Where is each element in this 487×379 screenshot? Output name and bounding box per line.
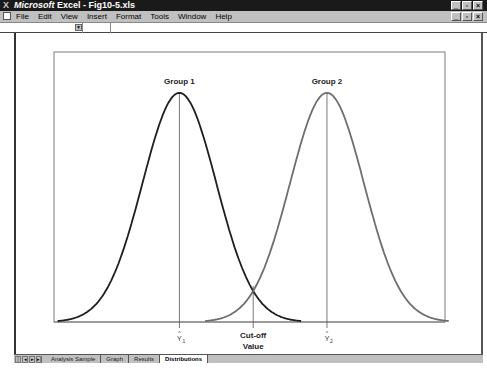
centroid-1-symbol: Y <box>177 335 182 342</box>
plot-area[interactable] <box>54 52 445 322</box>
tab-navigation: |◂ ◂ ▸ ▸| <box>15 356 42 363</box>
menu-tools[interactable]: Tools <box>150 11 169 22</box>
chart[interactable]: Group 1 Group 2 ^ Y 1 ^ Y 2 Cut-off Valu… <box>16 33 485 354</box>
minimize-button[interactable]: _ <box>451 1 461 10</box>
window-right-border <box>481 33 483 354</box>
workbook-controls: _ ▫ × <box>451 12 483 21</box>
menu-file[interactable]: File <box>16 11 29 22</box>
cutoff-label-line-2: Value <box>243 342 264 351</box>
centroid-1-subscript: 1 <box>182 338 185 344</box>
window-title: Microsoft Excel - Fig10-5.xls <box>14 0 135 11</box>
menu-edit[interactable]: Edit <box>38 11 52 22</box>
close-button[interactable]: × <box>473 1 483 10</box>
excel-logo-icon: X <box>3 1 12 10</box>
menu-help[interactable]: Help <box>215 11 231 22</box>
next-sheet-button[interactable]: ▸ <box>29 356 35 363</box>
menu-bar: File Edit View Insert Format Tools Windo… <box>0 11 487 22</box>
last-sheet-button[interactable]: ▸| <box>36 356 42 363</box>
name-box[interactable]: ▼ <box>16 23 83 33</box>
prev-sheet-button[interactable]: ◂ <box>22 356 28 363</box>
workbook-close-button[interactable]: × <box>473 12 483 21</box>
chart-sheet: Group 1 Group 2 ^ Y 1 ^ Y 2 Cut-off Valu… <box>14 33 485 354</box>
menu-insert[interactable]: Insert <box>87 11 107 22</box>
first-sheet-button[interactable]: |◂ <box>15 356 21 363</box>
status-area <box>0 363 487 379</box>
cutoff-label-line-1: Cut-off <box>240 331 267 340</box>
centroid-2-symbol: Y <box>325 335 330 342</box>
centroid-2-subscript: 2 <box>330 338 333 344</box>
formula-separator <box>110 23 111 33</box>
workbook-minimize-button[interactable]: _ <box>451 12 461 21</box>
group-1-label: Group 1 <box>164 77 195 86</box>
formula-bar: ▼ <box>0 22 487 33</box>
workbook-restore-button[interactable]: ▫ <box>462 12 472 21</box>
window-controls: _ ▫ × <box>451 1 483 10</box>
app-name: Microsoft <box>14 0 55 10</box>
restore-button[interactable]: ▫ <box>462 1 472 10</box>
workbook-icon[interactable] <box>3 12 11 20</box>
file-title: Excel - Fig10-5.xls <box>55 0 136 10</box>
group-2-label: Group 2 <box>312 77 343 86</box>
menu-view[interactable]: View <box>61 11 78 22</box>
title-bar: X Microsoft Excel - Fig10-5.xls _ ▫ × <box>0 0 487 11</box>
menu-format[interactable]: Format <box>116 11 141 22</box>
menu-window[interactable]: Window <box>178 11 206 22</box>
name-box-dropdown-icon[interactable]: ▼ <box>75 24 82 31</box>
